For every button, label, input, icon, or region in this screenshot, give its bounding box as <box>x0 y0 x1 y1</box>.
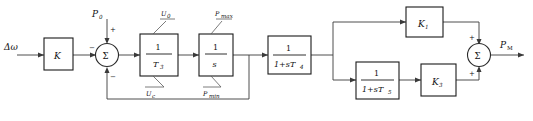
block-t3-denominator: T <box>153 60 159 69</box>
limit-upper-u0: U 0 <box>153 10 175 34</box>
block-t5-numerator: 1 <box>374 69 379 78</box>
block-t5-denominator-subscript: 5 <box>388 89 392 95</box>
block-gain-k[interactable]: K <box>44 38 73 70</box>
summing-junction-input[interactable]: Σ − + − <box>89 26 119 81</box>
sign-top-input: + <box>110 26 116 34</box>
limit-pmax-label: P <box>214 10 220 18</box>
block-limited-integrator-t3[interactable]: 1 T 3 <box>140 34 178 76</box>
block-gain-k-label: K <box>53 51 62 61</box>
block-t4-denominator: 1+sT <box>274 60 296 69</box>
block-gain-k3[interactable]: K 3 <box>421 64 456 96</box>
setpoint-label-group: P 0 <box>91 9 103 20</box>
sign-bottom-output: + <box>469 70 475 78</box>
output-signal-subscript: M <box>507 45 513 51</box>
block-limited-integrator-s[interactable]: 1 s <box>199 34 233 76</box>
block-s-numerator: 1 <box>213 43 218 52</box>
block-t3-numerator: 1 <box>156 43 161 52</box>
output-signal-label: P <box>499 40 507 50</box>
block-t4-numerator: 1 <box>286 44 291 53</box>
limit-upper-pmax: P max <box>211 10 234 34</box>
limit-u0-subscript: 0 <box>167 13 171 19</box>
setpoint-subscript: 0 <box>99 14 103 20</box>
block-t3-denominator-subscript: 3 <box>160 64 164 70</box>
output-signal-label-group: P M <box>499 40 513 51</box>
block-lag-t5[interactable]: 1 1+sT 5 <box>356 62 399 99</box>
sigma-symbol-output: Σ <box>475 51 481 61</box>
sign-top-output: + <box>469 34 475 42</box>
block-gain-k1-subscript: 1 <box>425 24 429 30</box>
block-lag-t4[interactable]: 1 1+sT 4 <box>268 36 311 74</box>
input-signal-label: Δω <box>3 42 18 52</box>
limit-lower-uc: U c <box>145 76 164 99</box>
limit-pmin-subscript: min <box>209 93 220 99</box>
limit-uc-subscript: c <box>152 93 156 99</box>
diagram-svg: Δω K P 0 Σ − + − 1 T 3 <box>0 0 533 121</box>
block-t5-denominator: 1+sT <box>362 85 384 94</box>
limit-pmin-label: P <box>202 90 208 98</box>
sign-bottom-input: − <box>110 73 116 81</box>
limit-pmax-subscript: max <box>221 13 234 19</box>
setpoint-label: P <box>91 9 99 19</box>
block-t4-denominator-subscript: 4 <box>299 64 304 70</box>
sigma-symbol-input: Σ <box>103 51 109 61</box>
sign-left-input: − <box>89 44 95 52</box>
block-gain-k1[interactable]: K 1 <box>406 7 443 37</box>
block-s-denominator: s <box>213 60 217 69</box>
block-diagram-canvas: Δω K P 0 Σ − + − 1 T 3 <box>0 0 533 121</box>
block-gain-k3-subscript: 3 <box>439 82 443 88</box>
limit-lower-pmin: P min <box>202 76 221 99</box>
